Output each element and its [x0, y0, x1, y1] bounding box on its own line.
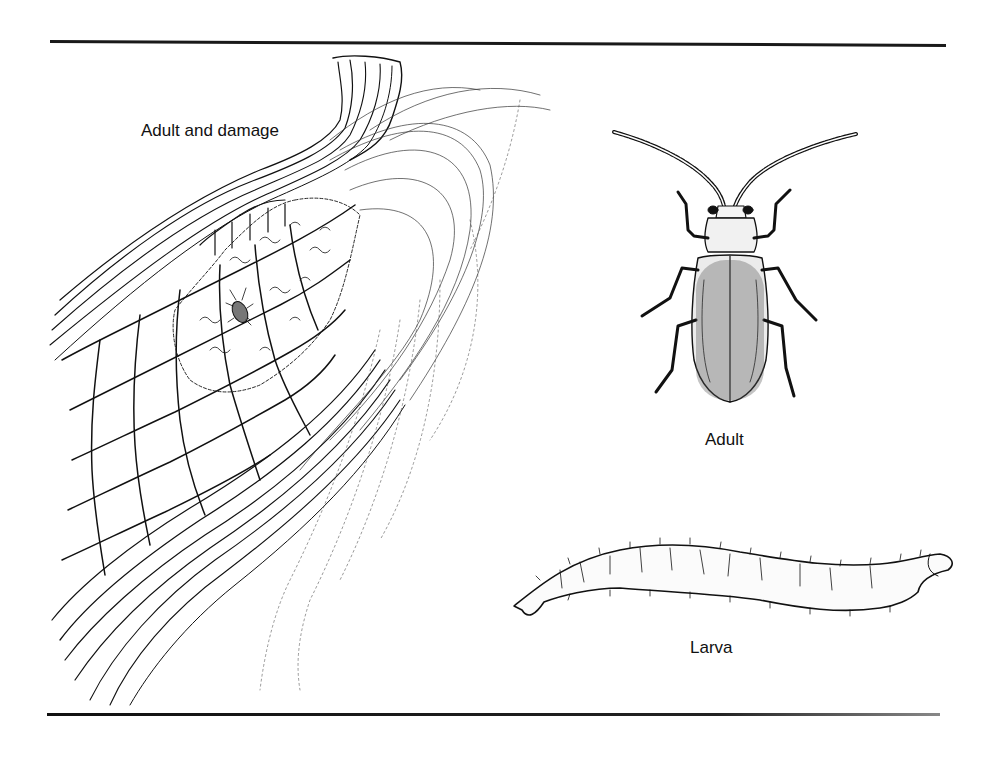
label-larva: Larva [690, 638, 733, 658]
label-adult: Adult [705, 430, 744, 450]
adult-beetle-illustration [600, 120, 870, 410]
label-adult-and-damage: Adult and damage [141, 121, 279, 141]
larva-illustration [500, 530, 960, 630]
bottom-divider-rule [47, 713, 940, 716]
